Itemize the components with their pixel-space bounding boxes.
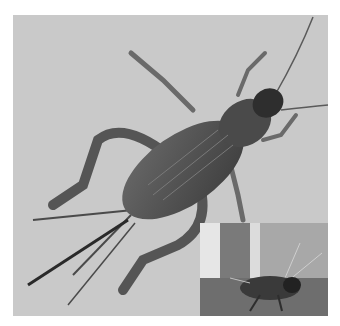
inset-cricket-illustration [200, 223, 328, 316]
inset-cricket-photo [200, 223, 328, 316]
main-cricket-photo [13, 15, 328, 316]
